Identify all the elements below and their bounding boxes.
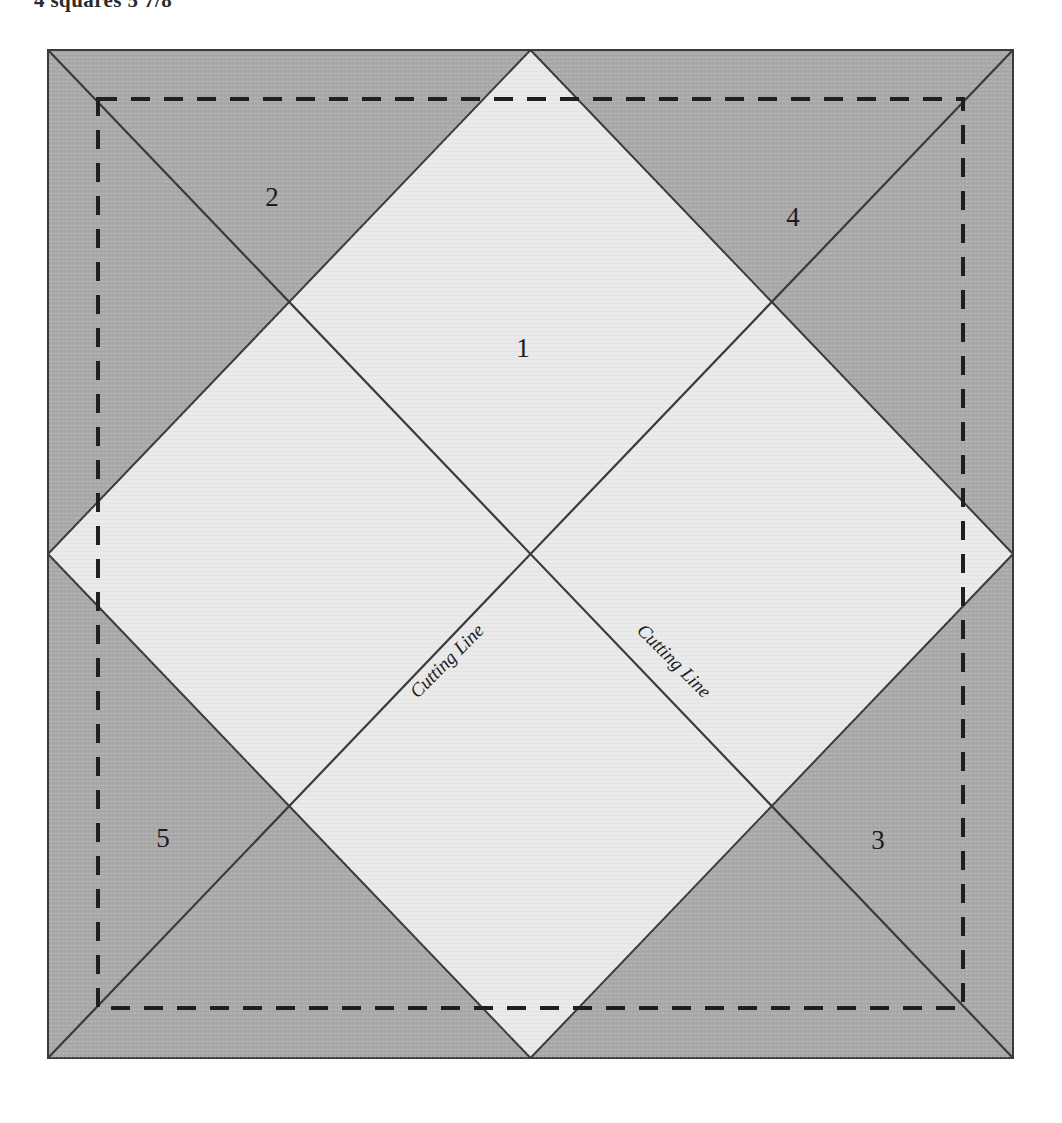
cutting-diagram-svg xyxy=(47,49,1014,1059)
figure-caption: 4 squares 5 7/8 xyxy=(34,0,172,13)
page-canvas: 4 squares 5 7/8 xyxy=(0,0,1062,1123)
piece-label-1: 1 xyxy=(516,333,530,364)
piece-label-4: 4 xyxy=(786,202,800,233)
diagram-figure: 1 2 4 5 3 Cutting Line Cutting Line xyxy=(47,49,1014,1059)
piece-label-5: 5 xyxy=(156,823,170,854)
piece-label-3: 3 xyxy=(871,825,885,856)
piece-label-2: 2 xyxy=(265,182,279,213)
